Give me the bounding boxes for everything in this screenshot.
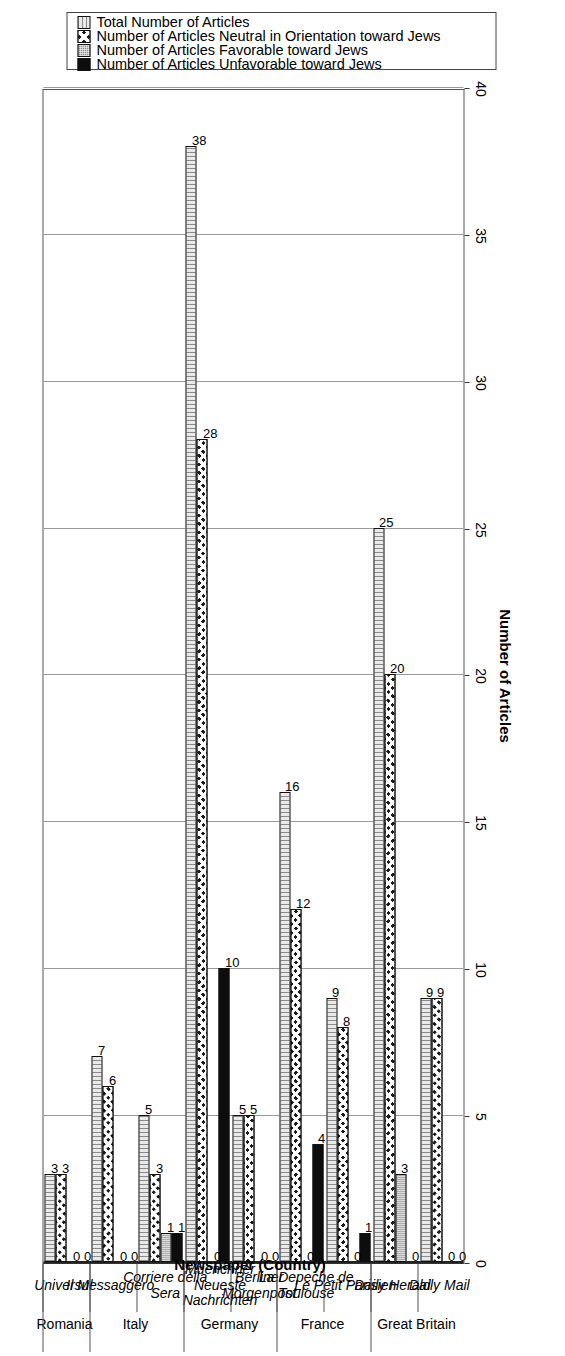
bar	[337, 1027, 348, 1262]
data-label: 8	[343, 1015, 350, 1028]
legend-label: Number of Articles Unfavorable toward Je…	[96, 56, 381, 72]
bar	[290, 910, 301, 1263]
legend-label: Number of Articles Neutral in Orientatio…	[96, 28, 440, 44]
data-label: 6	[108, 1073, 115, 1086]
value-axis-tick-label: 15	[472, 809, 488, 837]
country-tick	[276, 1264, 277, 1352]
data-label: 0	[354, 1250, 361, 1263]
country-tick	[89, 1264, 90, 1352]
value-axis-tick-mark	[464, 1116, 469, 1117]
data-label: 1	[166, 1220, 173, 1233]
rotated-page-wrapper: Number of Articles 0510152025303540 9900…	[0, 0, 565, 1356]
bar	[431, 998, 442, 1262]
bar	[149, 1174, 160, 1262]
bar	[395, 1174, 406, 1262]
data-label: 4	[318, 1132, 325, 1145]
legend-item: Number of Articles Favorable toward Jews	[77, 42, 368, 58]
bar	[384, 675, 395, 1263]
value-axis-tick-label: 25	[472, 516, 488, 544]
data-label: 12	[296, 897, 310, 910]
data-label: 0	[83, 1250, 90, 1263]
legend-item: Number of Articles Unfavorable toward Je…	[77, 56, 381, 72]
data-label: 0	[459, 1250, 466, 1263]
value-axis-tick-mark	[464, 235, 469, 236]
value-axis-tick-label: 30	[472, 369, 488, 397]
legend-item: Total Number of Articles	[77, 14, 249, 30]
legend-label: Total Number of Articles	[96, 14, 249, 30]
bar	[279, 792, 290, 1262]
value-axis-tick-mark	[464, 822, 469, 823]
data-label: 20	[390, 662, 404, 675]
country-tick	[370, 1264, 371, 1352]
value-axis-tick-label: 20	[472, 663, 488, 691]
data-label: 5	[238, 1103, 245, 1116]
data-label: 10	[224, 956, 238, 969]
data-label: 3	[50, 1161, 57, 1174]
value-axis-tick-label: 10	[472, 956, 488, 984]
bar	[420, 998, 431, 1262]
data-label: 9	[332, 985, 339, 998]
data-label: 0	[119, 1250, 126, 1263]
value-axis-tick-mark	[464, 88, 469, 89]
data-label: 3	[155, 1161, 162, 1174]
value-axis-tick-mark	[464, 382, 469, 383]
gridline	[43, 87, 463, 88]
data-label: 38	[191, 133, 205, 146]
value-axis-tick-mark	[464, 529, 469, 530]
data-label: 5	[249, 1103, 256, 1116]
data-label: 5	[144, 1103, 151, 1116]
gridline	[43, 381, 463, 382]
gridline	[43, 528, 463, 529]
data-label: 3	[401, 1161, 408, 1174]
bar	[232, 1115, 243, 1262]
value-axis-tick-label: 0	[472, 1250, 488, 1278]
bar	[91, 1056, 102, 1262]
data-label: 9	[426, 985, 433, 998]
bar	[55, 1174, 66, 1262]
value-axis-tick-mark	[464, 969, 469, 970]
data-label: 0	[130, 1250, 137, 1263]
plot-area: 9900252030980116120455003828010531176003…	[42, 89, 464, 1264]
data-label: 1	[365, 1220, 372, 1233]
legend-swatch-icon	[77, 44, 90, 57]
data-label: 0	[412, 1250, 419, 1263]
value-axis-tick-mark	[464, 676, 469, 677]
value-axis-tick-label: 35	[472, 222, 488, 250]
bar	[373, 528, 384, 1262]
legend-item: Number of Articles Neutral in Orientatio…	[77, 28, 440, 44]
value-axis-tick-label: 5	[472, 1103, 488, 1131]
bar	[326, 998, 337, 1262]
bar	[218, 968, 229, 1262]
chart-figure: Number of Articles 0510152025303540 9900…	[0, 0, 565, 1356]
category-label: Universul	[0, 1278, 138, 1294]
bar	[243, 1115, 254, 1262]
bar	[196, 440, 207, 1263]
data-label: 9	[437, 985, 444, 998]
legend-swatch-icon	[77, 16, 90, 29]
data-label: 0	[72, 1250, 79, 1263]
country-tick	[183, 1264, 184, 1352]
bar	[138, 1115, 149, 1262]
bar	[312, 1145, 323, 1263]
category-axis-title: Newspaper (Country)	[150, 1256, 350, 1273]
data-label: 7	[97, 1044, 104, 1057]
gridline	[43, 234, 463, 235]
chart-legend: Number of Articles Unfavorable toward Je…	[66, 12, 496, 70]
bar	[185, 146, 196, 1262]
gridline	[43, 968, 463, 969]
legend-swatch-icon	[77, 58, 90, 71]
gridline	[43, 821, 463, 822]
data-label: 0	[448, 1250, 455, 1263]
bar	[44, 1174, 55, 1262]
legend-swatch-icon	[77, 30, 90, 43]
data-label: 16	[285, 780, 299, 793]
data-label: 25	[379, 515, 393, 528]
value-axis-title: Number of Articles	[496, 587, 513, 767]
data-label: 3	[61, 1161, 68, 1174]
legend-label: Number of Articles Favorable toward Jews	[96, 42, 368, 58]
data-label: 28	[202, 427, 216, 440]
country-label: Romania	[0, 1316, 134, 1332]
bar	[102, 1086, 113, 1262]
data-label: 1	[177, 1220, 184, 1233]
country-tick	[42, 1264, 43, 1352]
